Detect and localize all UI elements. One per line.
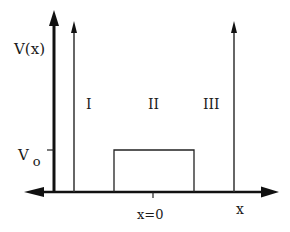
y-axis [49,10,59,192]
x-axis-label: x [236,201,244,217]
right-wall [231,21,237,192]
region-label-I: I [86,96,92,112]
region-label-II: II [148,96,159,112]
y-axis-arrowhead-icon [49,10,59,26]
region-label-III: III [203,96,220,112]
left-wall [71,21,77,192]
right-wall-arrowhead-icon [231,21,237,33]
barrier-height-label-main: V [17,146,30,164]
left-wall-arrowhead-icon [71,21,77,33]
x-axis [24,187,279,198]
origin-label: x=0 [137,207,164,222]
y-axis-label: V(x) [13,40,45,58]
potential-barrier [114,150,194,192]
x-axis-left-arrowhead-icon [24,187,44,197]
x-axis-right-arrowhead-icon [261,187,279,198]
barrier-height-label-sub: o [33,154,41,169]
barrier-height-label: V o [17,146,41,169]
potential-barrier-diagram: V(x) V o I II III x=0 x [0,0,290,232]
